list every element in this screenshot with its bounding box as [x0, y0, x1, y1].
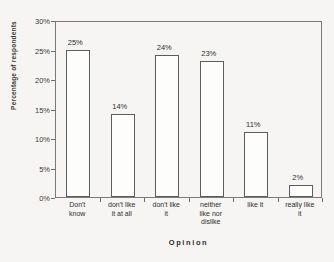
y-axis-tick-label: 20%: [12, 76, 50, 85]
y-axis-tick-label: 25%: [12, 46, 50, 55]
y-axis-tick-labels: 30%25%20%15%10%5%0%: [12, 21, 50, 198]
bar-value-label: 23%: [201, 49, 216, 58]
x-axis-tick-mark: [278, 198, 279, 202]
x-axis-category-line: don't like: [100, 201, 145, 210]
bar[interactable]: [111, 114, 135, 197]
y-axis-tick-label: 15%: [12, 105, 50, 114]
bar[interactable]: [155, 55, 179, 197]
x-axis-tick-mark: [233, 198, 234, 202]
x-axis-category-line: it: [278, 210, 323, 219]
bar-slot: 25%: [56, 22, 101, 197]
bar-slot: 14%: [101, 22, 146, 197]
x-axis-category-line: it: [144, 210, 189, 219]
bar[interactable]: [200, 61, 224, 197]
y-axis-tick-mark: [51, 51, 55, 52]
x-axis-tick-labels: Don'tknowdon't likeit at alldon't likeit…: [55, 201, 322, 237]
x-axis-category-label: Don'tknow: [55, 201, 100, 218]
bar-chart-figure: Percentage of respondents 30%25%20%15%10…: [0, 0, 334, 262]
bar-value-label: 2%: [292, 173, 303, 182]
bar-value-label: 24%: [157, 43, 172, 52]
y-axis-tick-label: 10%: [12, 135, 50, 144]
x-axis-tick-mark: [100, 198, 101, 202]
bar-value-label: 11%: [246, 120, 260, 129]
x-axis-category-line: know: [55, 210, 100, 219]
y-axis-tick-mark: [51, 80, 55, 81]
y-axis-tick-mark: [51, 139, 55, 140]
bar[interactable]: [289, 185, 313, 197]
x-axis-category-label: don't likeit at all: [100, 201, 145, 218]
y-axis-tick-mark: [51, 169, 55, 170]
bar-value-label: 14%: [112, 102, 127, 111]
x-axis-category-label: like it: [233, 201, 278, 210]
x-axis-category-label: really likeit: [278, 201, 323, 218]
y-axis-tick-mark: [51, 198, 55, 199]
chart-title: [0, 0, 334, 1]
x-axis-category-line: like it: [233, 201, 278, 210]
y-axis-tick-label: 5%: [12, 164, 50, 173]
x-axis-category-line: it at all: [100, 210, 145, 219]
x-axis-tick-mark: [189, 198, 190, 202]
bar-slot: 24%: [145, 22, 190, 197]
bar-slot: 2%: [279, 22, 324, 197]
bar-slot: 23%: [190, 22, 235, 197]
y-axis-tick-label: 30%: [12, 17, 50, 26]
bar-slot: 11%: [234, 22, 279, 197]
plot-area: 25%14%24%23%11%2%: [55, 21, 322, 198]
x-axis-category-line: really like: [278, 201, 323, 210]
x-axis-category-label: don't likeit: [144, 201, 189, 218]
y-axis-tick-mark: [51, 110, 55, 111]
x-axis-category-line: neither: [189, 201, 234, 210]
x-axis-category-line: Don't: [55, 201, 100, 210]
x-axis-tick-mark: [144, 198, 145, 202]
x-axis-category-line: like nor: [189, 210, 234, 219]
x-axis-category-line: don't like: [144, 201, 189, 210]
plot-inner: 25%14%24%23%11%2%: [56, 22, 321, 197]
x-axis-title: Opinion: [55, 238, 322, 247]
x-axis-category-line: dislike: [189, 218, 234, 227]
x-axis-category-label: neitherlike nordislike: [189, 201, 234, 227]
bar[interactable]: [66, 50, 90, 198]
y-axis-tick-label: 0%: [12, 194, 50, 203]
bar-value-label: 25%: [68, 38, 83, 47]
bar[interactable]: [244, 132, 268, 197]
x-axis-tick-mark: [322, 198, 323, 202]
y-axis-tick-mark: [51, 21, 55, 22]
